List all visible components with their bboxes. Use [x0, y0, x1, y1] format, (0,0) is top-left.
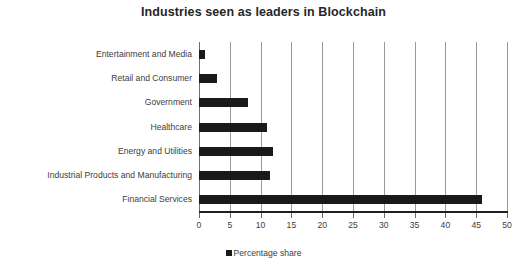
legend-square-marker-icon	[226, 250, 232, 256]
x-tick-label: 25	[348, 220, 358, 230]
x-tick-label: 5	[227, 220, 232, 230]
x-tick-45	[476, 213, 477, 218]
bar	[199, 171, 270, 180]
bar	[199, 123, 267, 132]
x-tick-15	[291, 213, 292, 218]
x-tick-label: 15	[287, 220, 297, 230]
x-tick-label: 30	[379, 220, 389, 230]
bars-layer	[199, 42, 507, 212]
x-tick-40	[445, 213, 446, 218]
x-tick-50	[507, 213, 508, 218]
x-tick-30	[384, 213, 385, 218]
x-axis-tick-labels: 05101520253035404550	[0, 220, 527, 234]
category-label: Healthcare	[0, 123, 192, 132]
x-tick-label: 20	[317, 220, 327, 230]
category-label: Entertainment and Media	[0, 50, 192, 59]
x-tick-label: 0	[197, 220, 202, 230]
category-label: Retail and Consumer	[0, 74, 192, 83]
bar	[199, 74, 217, 83]
bar	[199, 50, 205, 59]
x-tick-label: 50	[502, 220, 512, 230]
y-axis-category-labels: Entertainment and MediaRetail and Consum…	[0, 42, 192, 212]
bar	[199, 147, 273, 156]
x-tick-35	[415, 213, 416, 218]
chart-title: Industries seen as leaders in Blockchain	[0, 5, 527, 19]
gridline-50	[507, 42, 508, 212]
x-tick-10	[261, 213, 262, 218]
x-tick-20	[322, 213, 323, 218]
x-tick-label: 35	[410, 220, 420, 230]
x-tick-5	[230, 213, 231, 218]
x-tick-0	[199, 213, 200, 218]
bar-chart-figure: Industries seen as leaders in Blockchain…	[0, 0, 527, 275]
x-tick-label: 45	[471, 220, 481, 230]
x-tick-25	[353, 213, 354, 218]
category-label: Financial Services	[0, 195, 192, 204]
category-label: Government	[0, 98, 192, 107]
legend-label: Percentage share	[234, 248, 302, 258]
category-label: Energy and Utilities	[0, 147, 192, 156]
x-tick-label: 10	[256, 220, 266, 230]
bar	[199, 98, 248, 107]
category-label: Industrial Products and Manufacturing	[0, 171, 192, 180]
x-tick-label: 40	[441, 220, 451, 230]
chart-legend: Percentage share	[0, 248, 527, 258]
bar	[199, 195, 482, 204]
